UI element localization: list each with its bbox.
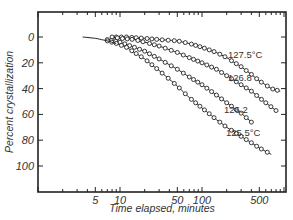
y-tick-label: 0 <box>28 31 35 43</box>
y-tick-label: 20 <box>21 57 35 69</box>
y-tick-label: 40 <box>22 83 35 95</box>
y-axis-title: Percent crystallization <box>3 51 15 153</box>
y-tick-label: 60 <box>22 108 35 120</box>
series-label: 126.8 <box>228 72 252 83</box>
x-tick-label: 500 <box>250 194 269 206</box>
y-tick-label: 100 <box>16 160 35 172</box>
y-tick-label: 80 <box>22 134 35 146</box>
x-tick-label: 5 <box>92 194 99 206</box>
x-axis-title: Time elapsed, minutes <box>109 202 215 214</box>
series-label: 126.2 <box>224 104 248 115</box>
crystallization-chart: 51050100500 020406080100 127.5°C126.8126… <box>0 0 293 220</box>
series-label: 127.5°C <box>228 49 263 60</box>
series-label: 125.5°C <box>226 127 261 138</box>
